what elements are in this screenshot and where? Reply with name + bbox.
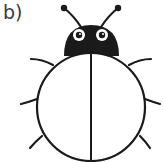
left-top-leg [31, 59, 53, 65]
left-bottom-leg [30, 136, 42, 148]
left-antenna [64, 8, 81, 27]
left-mid-leg [21, 99, 37, 104]
right-mid-leg [145, 99, 160, 104]
left-antenna-tip [61, 5, 67, 11]
right-eye-glint [102, 33, 104, 35]
right-bottom-leg [140, 136, 150, 148]
right-pupil [99, 32, 105, 38]
left-pupil [76, 32, 82, 38]
right-antenna-tip [115, 5, 121, 11]
right-antenna [101, 8, 118, 27]
right-top-leg [129, 59, 151, 65]
head [64, 25, 119, 56]
left-eye-glint [79, 33, 81, 35]
ladybug-icon [0, 0, 163, 162]
